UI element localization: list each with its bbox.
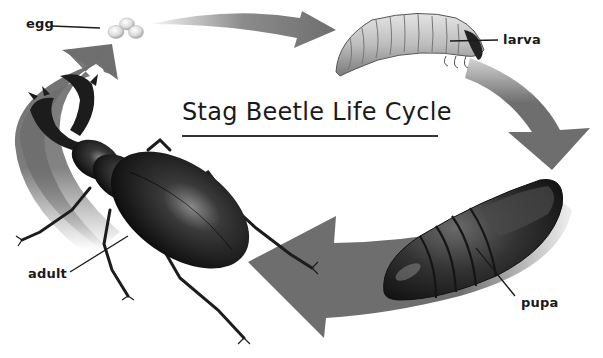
label-larva: larva — [503, 32, 541, 47]
egg-illustration — [108, 18, 144, 39]
life-cycle-diagram: Stag Beetle Life Cycle egg larva pupa ad… — [0, 0, 603, 358]
egg-leader-line — [52, 26, 100, 28]
larva-illustration — [336, 13, 484, 76]
title-underline — [182, 135, 438, 137]
diagram-title: Stag Beetle Life Cycle — [182, 98, 452, 126]
label-adult: adult — [28, 266, 67, 281]
diagram-artwork — [0, 0, 603, 358]
label-egg: egg — [26, 16, 54, 31]
label-pupa: pupa — [521, 295, 558, 310]
arrow-larva-to-pupa — [465, 58, 590, 170]
arrow-egg-to-larva — [150, 11, 336, 48]
